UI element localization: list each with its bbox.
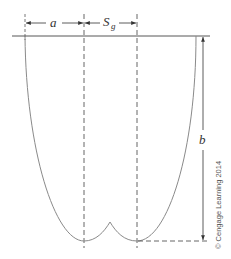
- dimension-s-subscript: g: [111, 21, 116, 31]
- diagram-canvas: a S g b © Cengage Learning 2014: [0, 0, 231, 259]
- dimension-b-label: b: [199, 132, 206, 147]
- double-parabola-curve: [25, 36, 196, 241]
- dimension-s-label: S: [103, 14, 110, 29]
- dimension-a-label: a: [50, 15, 57, 30]
- copyright-notice: © Cengage Learning 2014: [214, 161, 223, 249]
